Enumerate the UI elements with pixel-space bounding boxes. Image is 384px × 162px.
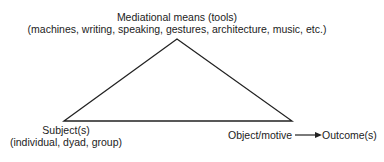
- left-node-title: Subject(s): [0, 124, 132, 136]
- outcome-label: Outcome(s): [322, 129, 377, 141]
- top-node-title: Mediational means (tools): [0, 11, 354, 23]
- right-node-title: Object/motive: [228, 129, 292, 141]
- mediation-triangle: [64, 39, 292, 121]
- left-node-subtitle: (individual, dyad, group): [0, 136, 132, 148]
- top-node-subtitle: (machines, writing, speaking, gestures, …: [0, 23, 354, 35]
- arrow-head-icon: [315, 132, 322, 138]
